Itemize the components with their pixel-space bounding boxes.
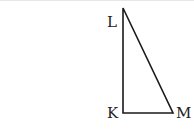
triangle-diagram: L K M [0,0,194,130]
triangle-klm [123,8,173,113]
vertex-label-l: L [107,13,117,31]
vertex-label-k: K [107,104,119,122]
vertex-label-m: M [176,104,191,122]
